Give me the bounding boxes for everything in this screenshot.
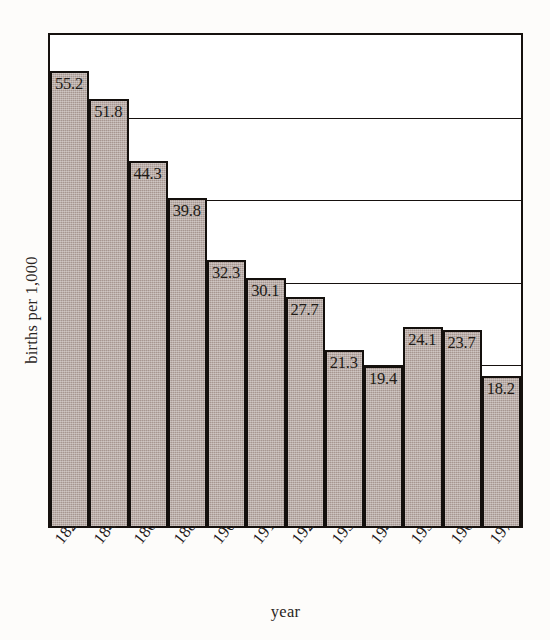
plot-area: 55.251.844.339.832.330.127.721.319.424.1… [48,33,523,528]
bar-slot: 44.3 [129,35,168,526]
bar[interactable]: 51.8 [89,99,128,526]
bar[interactable]: 21.3 [325,350,364,526]
bar-value-label: 44.3 [134,165,162,182]
bar-slot: 30.1 [246,35,285,526]
bar[interactable]: 30.1 [246,278,285,526]
bar-value-label: 32.3 [212,264,240,281]
x-tick-slot: 1970 [483,530,523,600]
bar-slot: 19.4 [364,35,403,526]
x-tick-slot: 1880 [167,530,207,600]
bar-value-label: 24.1 [408,331,436,348]
y-axis-title: births per 1,000 [22,190,42,430]
bar-value-label: 55.2 [55,75,83,92]
bar[interactable]: 55.2 [50,71,89,526]
bar[interactable]: 27.7 [286,297,325,526]
bar-value-label: 39.8 [173,202,201,219]
x-tick-slot: 1960 [444,530,484,600]
x-tick-slot: 1930 [325,530,365,600]
bar[interactable]: 32.3 [207,260,246,526]
x-tick-slot: 1840 [88,530,128,600]
bar-slot: 27.7 [286,35,325,526]
bar-value-label: 19.4 [369,370,397,387]
bar-slot: 24.1 [403,35,442,526]
bar-value-label: 51.8 [94,103,122,120]
x-tick-slot: 1920 [285,530,325,600]
bar-slot: 21.3 [325,35,364,526]
x-tick-slot: 1940 [365,530,405,600]
bar[interactable]: 44.3 [129,161,168,526]
bar-slot: 51.8 [89,35,128,526]
bar-series: 55.251.844.339.832.330.127.721.319.424.1… [50,35,521,526]
bar-value-label: 30.1 [251,282,279,299]
x-tick-slot: 1950 [404,530,444,600]
bar[interactable]: 39.8 [168,198,207,526]
x-axis-tick-labels: 1820184018601880190019101920193019401950… [48,530,523,600]
bar-value-label: 18.2 [487,380,515,397]
x-tick-slot: 1910 [246,530,286,600]
x-tick-slot: 1820 [48,530,88,600]
bar-slot: 39.8 [168,35,207,526]
bar-slot: 23.7 [443,35,482,526]
bar-slot: 55.2 [50,35,89,526]
bar[interactable]: 18.2 [482,376,521,526]
bar-value-label: 21.3 [330,354,358,371]
bar-value-label: 27.7 [291,301,319,318]
x-tick-slot: 1860 [127,530,167,600]
bar[interactable]: 19.4 [364,366,403,526]
bar-value-label: 23.7 [448,334,476,351]
bar-slot: 18.2 [482,35,521,526]
chart-figure: births per 1,000 55.251.844.339.832.330.… [0,0,550,640]
x-axis-title: year [48,602,523,622]
x-tick-slot: 1900 [206,530,246,600]
bar[interactable]: 23.7 [443,330,482,526]
bar[interactable]: 24.1 [403,327,442,526]
bar-slot: 32.3 [207,35,246,526]
